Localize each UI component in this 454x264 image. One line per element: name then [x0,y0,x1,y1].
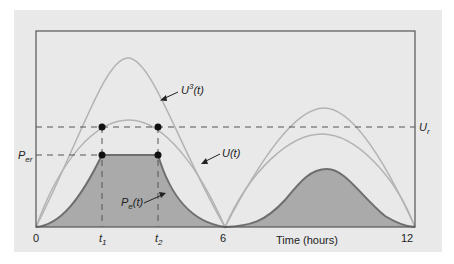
x-axis-label: Time (hours) [276,234,338,246]
dot-t2-ur [155,124,162,131]
u-label: U(t) [222,147,241,159]
dot-t2-per [155,152,162,159]
dot-t1-ur [99,124,106,131]
x-tick-6: 6 [220,232,226,244]
x-tick-12: 12 [401,232,413,244]
u3-label: U3(t) [181,82,204,96]
dot-t1-per [99,152,106,159]
power-curve-figure: U3(t) U(t) Pe(t) Ur Per 0 t1 t2 6 12 Tim… [0,0,454,264]
x-tick-0: 0 [33,232,39,244]
